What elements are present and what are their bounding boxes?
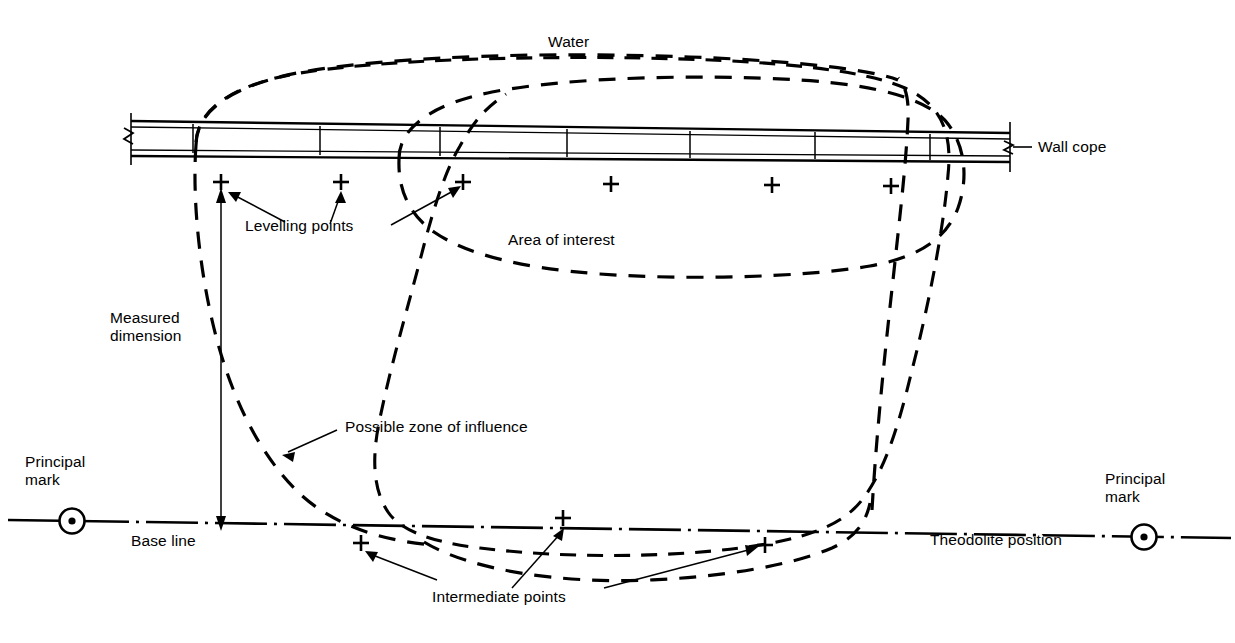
measured-dimension-arrowhead-top: [216, 188, 226, 203]
label-measured-dimension-line1: Measured: [110, 309, 180, 327]
zone-top-curve: [196, 55, 898, 145]
zone-of-influence-left-branch: [195, 145, 432, 545]
zone-left-descending-curve: [195, 145, 432, 545]
leader-arrowhead-levelling-2: [335, 191, 346, 203]
leader-line-intermediate-1: [370, 554, 437, 580]
principal-mark-left-dot: [68, 517, 75, 524]
label-principal-mark-left-line2: mark: [25, 471, 60, 489]
label-principal-mark-right-line2: mark: [1105, 488, 1140, 506]
label-theodolite-position: Theodolite position: [930, 531, 1062, 549]
label-wall-cope: Wall cope: [1038, 138, 1106, 156]
zone-of-influence-outline: [196, 58, 949, 556]
wall-cope-bottom-outer-line: [131, 156, 1010, 162]
principal-mark-right: [1132, 525, 1157, 550]
levelling-points-group: [213, 174, 899, 194]
zone-of-influence-bottom-sweep: [424, 503, 870, 581]
intermediate-points-leaders: [365, 528, 758, 588]
zone-of-influence-right-branch: [872, 78, 908, 510]
survey-diagram: Water Wall cope Levelling points Area of…: [0, 0, 1235, 643]
zone-right-ascending-curve: [872, 78, 908, 510]
intermediate-point-marker: [353, 535, 369, 551]
zone-of-influence-top-arc: [196, 55, 898, 145]
levelling-point-marker: [213, 174, 229, 190]
possible-zone-leader: [282, 430, 337, 462]
label-measured-dimension-line2: dimension: [110, 327, 182, 345]
wall-cope-structure: [124, 113, 1013, 172]
possible-zone-of-influence-curve: [196, 58, 949, 556]
label-base-line: Base line: [131, 532, 196, 550]
levelling-point-marker: [333, 174, 349, 190]
label-principal-mark-left-line1: Principal: [25, 453, 85, 471]
measured-dimension-arrow: [216, 188, 226, 531]
leader-line-zone: [288, 430, 337, 452]
area-of-interest-curve: [399, 77, 964, 277]
zone-bottom-curve: [424, 503, 870, 581]
label-water: Water: [548, 33, 589, 51]
intermediate-point-marker: [757, 537, 773, 553]
label-levelling-points: Levelling points: [245, 217, 353, 235]
principal-mark-right-dot: [1140, 533, 1147, 540]
label-possible-zone-of-influence: Possible zone of influence: [345, 418, 528, 436]
levelling-point-marker: [764, 177, 780, 193]
label-intermediate-points: Intermediate points: [432, 588, 566, 606]
intermediate-point-marker: [555, 510, 571, 526]
wall-cope-top-inner-line: [131, 127, 1010, 139]
wall-cope-top-outer-line: [131, 121, 1010, 133]
levelling-point-marker: [883, 178, 899, 194]
leader-line-levelling-3: [391, 190, 455, 225]
area-of-interest-outline: [399, 77, 964, 277]
leader-line-intermediate-2: [512, 534, 560, 588]
levelling-point-marker: [603, 176, 619, 192]
wall-cope-right-break-icon: [1004, 141, 1013, 154]
label-area-of-interest: Area of interest: [508, 231, 615, 249]
wall-cope-bottom-inner-line: [131, 150, 1010, 156]
label-principal-mark-right-line1: Principal: [1105, 470, 1165, 488]
principal-mark-left: [60, 509, 85, 534]
leader-arrowhead-zone: [282, 452, 295, 462]
